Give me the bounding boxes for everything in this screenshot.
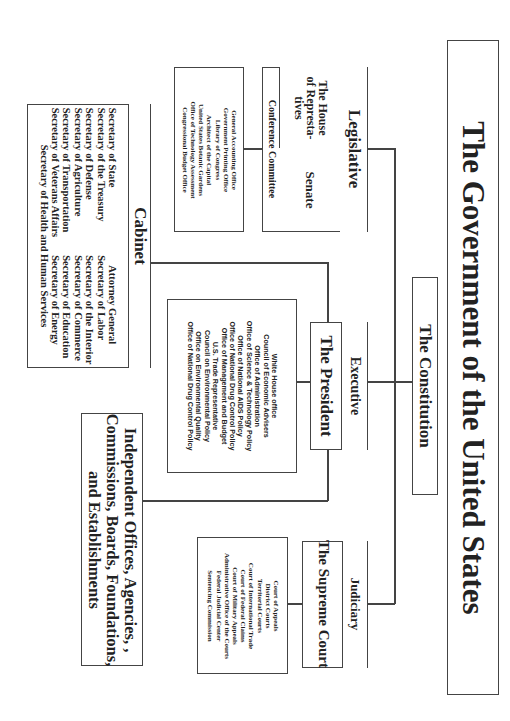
executive-offices-box: White House office Council of Economic A… [167,299,297,473]
constitution-executive-connector [367,381,413,383]
cabinet-connector [150,262,328,264]
cabinet-column-2: Attorney General Secretary of Labor Secr… [49,255,117,364]
cabinet-box: Cabinet Secretary of State Secretary of … [27,104,151,368]
independent-offices-label: Independent Offices, Agencies, , Commiss… [85,413,139,666]
senate-box: Senate [279,148,341,231]
legislative-group: Legislative The House of Represta- tives… [262,67,368,232]
legislative-connector [367,148,395,150]
constitution-label: The Constitution [415,324,435,447]
legislative-header: Legislative [339,67,367,232]
president-independent-connector [327,449,329,501]
cabinet-column-1: Secretary of State Secretary of the Trea… [49,107,117,237]
independent-connector [142,500,328,502]
executive-offices-connector [296,381,310,383]
title-box: The Government of the United States [447,40,499,695]
page-title: The Government of the United States [455,121,491,614]
supreme-court-label-box: The Supreme Court [303,542,343,666]
legislative-offices-connector [244,148,262,150]
judiciary-connector [368,603,395,605]
judiciary-header: Judiciary [342,541,367,668]
judiciary-box: Judiciary The Supreme Court [302,541,368,668]
legislative-offices-box: General Accounting Office Government Pri… [174,67,244,232]
house-box: The House of Represta- tives [279,67,341,150]
executive-offices-list: White House office Council of Economic A… [186,321,278,451]
cabinet-header: Cabinet [128,104,150,368]
president-label-box: The President [311,323,341,448]
conference-committee: Conference Committee [263,68,280,230]
judicial-offices-connector [287,603,302,605]
judicial-offices-list: Court of Appeals District Courts Territo… [206,552,280,658]
legislative-offices-list: General Accounting Office Government Pri… [180,101,237,198]
cabinet-members: Secretary of State Secretary of the Trea… [28,105,128,366]
cabinet-president-connector [327,262,329,322]
independent-offices-box: Independent Offices, Agencies, , Commiss… [81,413,143,666]
executive-box: Executive The President [310,322,368,450]
constitution-box: The Constitution [412,277,438,495]
trunk-connector [394,148,396,604]
executive-header: Executive [341,322,367,450]
judicial-offices-box: Court of Appeals District Courts Territo… [197,537,288,674]
